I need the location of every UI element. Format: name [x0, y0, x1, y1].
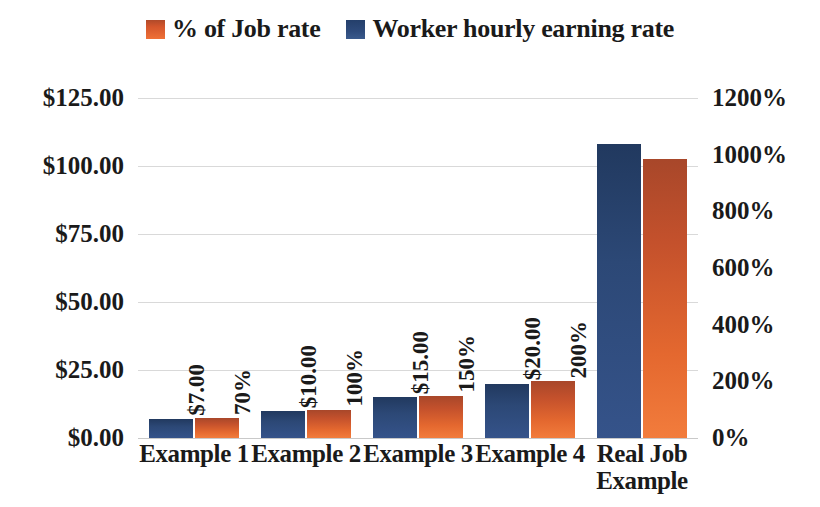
legend-item-percent-of-job-rate: % of Job rate [146, 14, 320, 44]
bar-group: $10.00100% [250, 98, 362, 438]
y-axis-right-tick: 800% [712, 197, 820, 225]
bar-blue[interactable] [597, 144, 641, 438]
bar-group [586, 98, 698, 438]
x-axis-label: Example 1 [138, 440, 250, 467]
bar-wrapper: 150% [419, 98, 463, 438]
x-axis-label: Example 2 [250, 440, 362, 467]
bar-orange[interactable]: 70% [195, 418, 239, 438]
y-axis-right-tick: 0% [712, 424, 820, 452]
y-axis-right-tick: 200% [712, 367, 820, 395]
x-axis-label-line: Example 1 [138, 440, 250, 467]
x-axis-label-line: Example 3 [362, 440, 474, 467]
x-axis-label-line: Real Job [586, 440, 698, 467]
bar-blue[interactable]: $10.00 [261, 411, 305, 438]
legend-label-worker-hourly-earning-rate: Worker hourly earning rate [372, 14, 674, 44]
y-axis-left-tick: $25.00 [14, 356, 124, 384]
x-axis-label: Real JobExample [586, 440, 698, 494]
bar-wrapper: 100% [307, 98, 351, 438]
y-axis-left-tick: $0.00 [14, 424, 124, 452]
x-axis-label: Example 4 [474, 440, 586, 467]
bar-blue[interactable]: $15.00 [373, 397, 417, 438]
bar-groups: $7.0070%$10.00100%$15.00150%$20.00200% [138, 98, 698, 438]
bar-blue[interactable]: $20.00 [485, 384, 529, 438]
axis-baseline [138, 438, 698, 439]
bar-wrapper [643, 98, 687, 438]
y-axis-left-tick: $100.00 [14, 152, 124, 180]
bar-wrapper: $7.00 [149, 98, 193, 438]
bar-wrapper: $15.00 [373, 98, 417, 438]
y-axis-left-tick: $125.00 [14, 84, 124, 112]
legend-label-percent-of-job-rate: % of Job rate [172, 14, 320, 44]
orange-square-icon [146, 20, 165, 39]
legend-item-worker-hourly-earning-rate: Worker hourly earning rate [346, 14, 674, 44]
x-axis-label-line: Example 4 [474, 440, 586, 467]
x-axis-label-line: Example [586, 467, 698, 494]
bar-wrapper: 70% [195, 98, 239, 438]
bar-group: $15.00150% [362, 98, 474, 438]
bar-orange[interactable] [643, 159, 687, 438]
x-axis-category-labels: Example 1Example 2Example 3Example 4Real… [138, 440, 698, 504]
x-axis-label: Example 3 [362, 440, 474, 467]
bar-wrapper: 200% [531, 98, 575, 438]
bar-group: $20.00200% [474, 98, 586, 438]
bar-orange[interactable]: 100% [307, 410, 351, 438]
bar-orange[interactable]: 200% [531, 381, 575, 438]
bar-group: $7.0070% [138, 98, 250, 438]
bar-wrapper: $20.00 [485, 98, 529, 438]
bar-blue[interactable]: $7.00 [149, 419, 193, 438]
y-axis-right-tick: 1000% [712, 141, 820, 169]
chart-legend: % of Job rate Worker hourly earning rate [0, 14, 820, 44]
y-axis-left-tick: $75.00 [14, 220, 124, 248]
plot-area: $7.0070%$10.00100%$15.00150%$20.00200% [138, 98, 698, 438]
x-axis-label-line: Example 2 [250, 440, 362, 467]
y-axis-right-tick: 1200% [712, 84, 820, 112]
y-axis-left-tick: $50.00 [14, 288, 124, 316]
y-axis-right-tick: 600% [712, 254, 820, 282]
blue-square-icon [346, 20, 365, 39]
bar-wrapper [597, 98, 641, 438]
bar-wrapper: $10.00 [261, 98, 305, 438]
bar-orange[interactable]: 150% [419, 396, 463, 439]
y-axis-right-tick: 400% [712, 311, 820, 339]
